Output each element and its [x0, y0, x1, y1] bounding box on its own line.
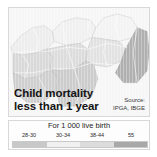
- map-panel[interactable]: Child mortality less than 1 year Source:…: [8, 7, 150, 117]
- map-source: Source: IPGA, IBGE: [113, 97, 145, 112]
- map-figure: Child mortality less than 1 year Source:…: [0, 0, 157, 157]
- legend-title: For 1 000 live birth: [9, 121, 149, 131]
- legend-color-bar: [12, 141, 148, 148]
- page-title: Child mortality less than 1 year: [14, 87, 99, 112]
- legend-swatch-3: [114, 142, 148, 147]
- legend-panel: For 1 000 live birth 28-30 30-34 38-44 5…: [8, 120, 150, 150]
- map-title-line-1: Child mortality: [14, 87, 99, 100]
- legend-swatch-1: [47, 142, 81, 147]
- map-source-label: Source:: [113, 97, 145, 105]
- legend-swatch-2: [80, 142, 114, 147]
- legend-label-3: 55: [128, 131, 134, 139]
- legend-labels: 28-30 30-34 38-44 55: [12, 131, 148, 140]
- map-title-line-2: less than 1 year: [14, 100, 99, 113]
- map-source-value: IPGA, IBGE: [113, 105, 145, 113]
- legend-label-1: 30-34: [56, 131, 70, 139]
- legend-swatch-0: [13, 142, 47, 147]
- legend-label-2: 38-44: [90, 131, 104, 139]
- legend-label-0: 28-30: [22, 131, 36, 139]
